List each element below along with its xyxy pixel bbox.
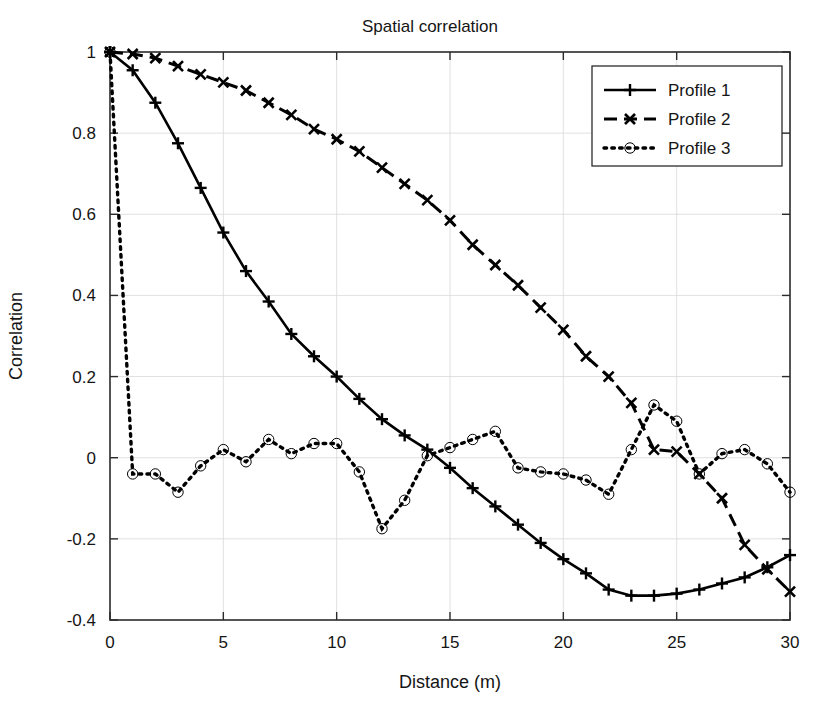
spatial-correlation-chart: 051015202530 -0.4-0.200.20.40.60.81 Prof… (0, 0, 829, 712)
x-tick-label: 15 (441, 633, 460, 652)
x-tick-label: 20 (554, 633, 573, 652)
legend-label-2: Profile 2 (668, 110, 730, 129)
x-tick-label: 10 (327, 633, 346, 652)
chart-legend: Profile 1Profile 2Profile 3 (592, 66, 782, 166)
y-tick-label: -0.2 (67, 530, 96, 549)
y-tick-label: 0.8 (72, 124, 96, 143)
x-tick-label: 30 (781, 633, 800, 652)
chart-figure: 051015202530 -0.4-0.200.20.40.60.81 Prof… (0, 0, 829, 712)
x-axis-label: Distance (m) (399, 672, 501, 692)
y-tick-label: 1 (87, 43, 96, 62)
y-axis-label: Correlation (6, 292, 26, 380)
x-tick-label: 0 (105, 633, 114, 652)
legend-label-1: Profile 1 (668, 81, 730, 100)
y-tick-label: 0.6 (72, 205, 96, 224)
x-tick-labels: 051015202530 (105, 633, 799, 652)
x-tick-label: 25 (667, 633, 686, 652)
y-tick-label: 0.2 (72, 368, 96, 387)
y-tick-label: -0.4 (67, 611, 96, 630)
legend-label-3: Profile 3 (668, 139, 730, 158)
chart-title: Spatial correlation (362, 17, 498, 36)
y-tick-label: 0 (87, 449, 96, 468)
y-tick-labels: -0.4-0.200.20.40.60.81 (67, 43, 96, 630)
x-tick-label: 5 (219, 633, 228, 652)
y-tick-label: 0.4 (72, 286, 96, 305)
